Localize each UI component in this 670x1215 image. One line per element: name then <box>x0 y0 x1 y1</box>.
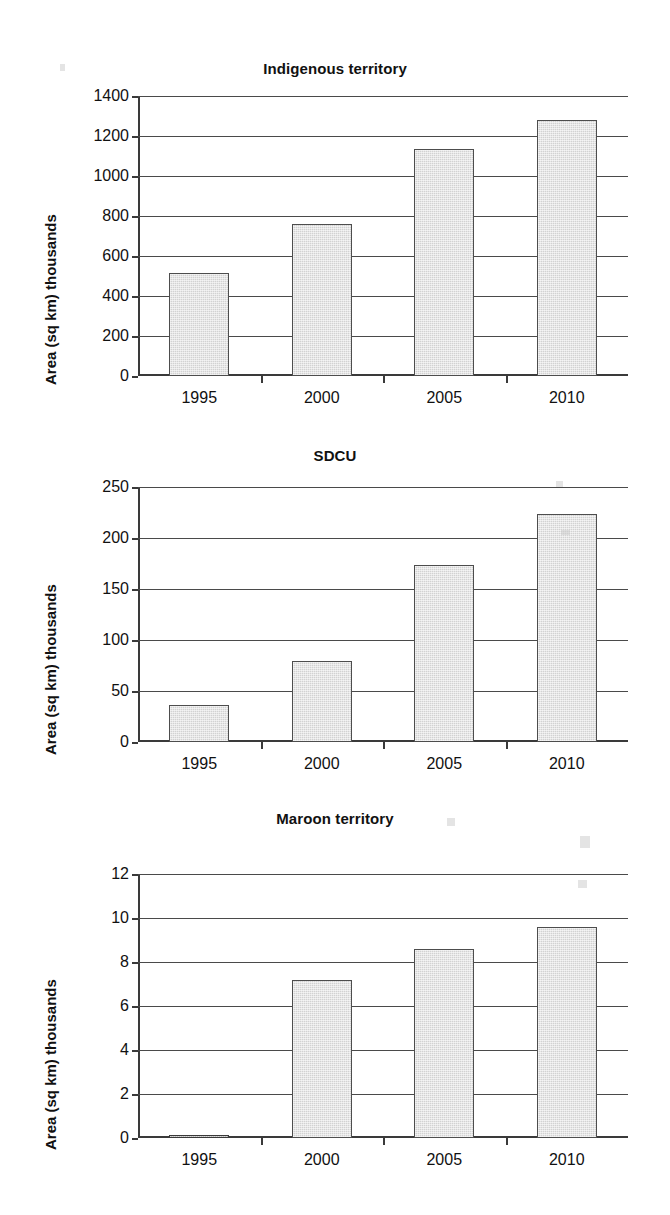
x-axis-tick-label: 2010 <box>549 389 585 407</box>
x-axis-tick-label: 2000 <box>304 1151 340 1169</box>
y-axis-tick <box>132 918 138 920</box>
x-axis-tick-label: 2005 <box>426 755 462 773</box>
y-axis-tick-label: 800 <box>102 207 129 225</box>
gridline <box>138 96 628 97</box>
y-axis-tick <box>132 1050 138 1052</box>
bar <box>414 149 474 376</box>
y-axis-label: Area (sq km) thousands <box>42 979 59 1150</box>
x-axis-tick-label: 2000 <box>304 389 340 407</box>
bar <box>169 273 229 376</box>
gridline <box>138 487 628 488</box>
bar <box>414 949 474 1138</box>
y-axis-tick <box>132 874 138 876</box>
bar <box>292 661 352 742</box>
x-axis-tick <box>261 742 263 749</box>
y-axis-tick-label: 1400 <box>93 87 129 105</box>
scan-speck <box>60 64 65 71</box>
plot-area: 024681012 1995200020052010 <box>138 874 628 1138</box>
x-axis-tick-label: 2010 <box>549 1151 585 1169</box>
chart-title: Maroon territory <box>0 810 670 827</box>
x-axis-tick-label: 2010 <box>549 755 585 773</box>
x-axis-tick <box>261 1138 263 1145</box>
y-axis-tick-label: 4 <box>120 1041 129 1059</box>
y-axis-tick <box>132 136 138 138</box>
x-axis-tick <box>383 376 385 383</box>
y-axis-tick-label: 1200 <box>93 127 129 145</box>
gridline <box>138 918 628 919</box>
y-axis-tick-label: 250 <box>102 478 129 496</box>
bar <box>537 120 597 376</box>
y-axis-tick <box>132 962 138 964</box>
scan-speck <box>447 818 455 826</box>
y-axis-tick-label: 100 <box>102 631 129 649</box>
y-axis-tick <box>132 1006 138 1008</box>
figure-page: Indigenous territory Area (sq km) thousa… <box>0 0 670 1215</box>
x-axis-tick <box>506 1138 508 1145</box>
y-axis-tick-label: 150 <box>102 580 129 598</box>
y-axis-tick <box>132 1094 138 1096</box>
y-axis-tick <box>132 742 138 744</box>
y-axis-tick-label: 6 <box>120 997 129 1015</box>
x-axis-tick <box>383 1138 385 1145</box>
scan-speck <box>556 481 563 487</box>
y-axis-tick <box>132 176 138 178</box>
chart-title: SDCU <box>0 447 670 464</box>
scan-speck <box>580 836 590 848</box>
bar <box>414 565 474 742</box>
bar <box>292 224 352 376</box>
y-axis-tick-label: 0 <box>120 1129 129 1147</box>
y-axis-tick-label: 200 <box>102 529 129 547</box>
plot-area: 0200400600800100012001400 19952000200520… <box>138 96 628 376</box>
x-axis-tick-label: 1995 <box>181 1151 217 1169</box>
bar <box>292 980 352 1138</box>
y-axis-tick-label: 400 <box>102 287 129 305</box>
y-axis-label: Area (sq km) thousands <box>42 584 59 755</box>
x-axis-tick-label: 2005 <box>426 389 462 407</box>
y-axis-tick <box>132 296 138 298</box>
y-axis-tick <box>132 336 138 338</box>
x-axis-tick <box>506 742 508 749</box>
chart-panel-indigenous-territory: Indigenous territory Area (sq km) thousa… <box>0 0 670 415</box>
y-axis-tick <box>132 96 138 98</box>
y-axis-tick-label: 50 <box>111 682 129 700</box>
y-axis-tick-label: 600 <box>102 247 129 265</box>
y-axis-tick-label: 0 <box>120 733 129 751</box>
scan-speck <box>578 880 587 888</box>
scan-speck <box>561 530 570 535</box>
x-axis-tick <box>506 376 508 383</box>
x-axis-tick-label: 2005 <box>426 1151 462 1169</box>
bar <box>169 705 229 742</box>
plot-area: 050100150200250 1995200020052010 <box>138 487 628 742</box>
y-axis-tick-label: 2 <box>120 1085 129 1103</box>
y-axis-tick-label: 1000 <box>93 167 129 185</box>
y-axis-tick <box>132 376 138 378</box>
y-axis-tick-label: 12 <box>111 865 129 883</box>
y-axis-tick-label: 8 <box>120 953 129 971</box>
bar <box>537 514 597 742</box>
x-axis-tick <box>383 742 385 749</box>
x-axis-tick <box>261 376 263 383</box>
bar <box>537 927 597 1138</box>
y-axis-tick <box>132 538 138 540</box>
y-axis-tick-label: 0 <box>120 367 129 385</box>
y-axis-tick-label: 10 <box>111 909 129 927</box>
y-axis-label: Area (sq km) thousands <box>42 214 59 385</box>
y-axis-tick-label: 200 <box>102 327 129 345</box>
y-axis-tick <box>132 589 138 591</box>
y-axis-tick <box>132 216 138 218</box>
y-axis-tick <box>132 691 138 693</box>
chart-panel-sdcu: SDCU Area (sq km) thousands 050100150200… <box>0 415 670 820</box>
chart-title: Indigenous territory <box>0 60 670 77</box>
y-axis-tick <box>132 640 138 642</box>
x-axis-tick-label: 1995 <box>181 755 217 773</box>
chart-panel-maroon-territory: Maroon territory Area (sq km) thousands … <box>0 820 670 1215</box>
y-axis-tick <box>132 1138 138 1140</box>
y-axis-tick <box>132 256 138 258</box>
bar <box>169 1135 229 1138</box>
y-axis-tick <box>132 487 138 489</box>
gridline <box>138 874 628 875</box>
x-axis-tick-label: 1995 <box>181 389 217 407</box>
x-axis-tick-label: 2000 <box>304 755 340 773</box>
